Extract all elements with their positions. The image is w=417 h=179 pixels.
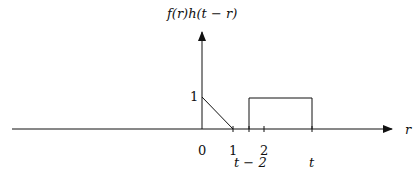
f-decay-line [202,97,233,129]
h-rectangle-pulse [249,98,312,129]
y-axis-label: f(r)h(t − r) [166,6,237,21]
convolution-diagram: f(r)h(t − r) r 1 0 1 2 t − 2 t [0,0,417,179]
x-tick-label-zero: 0 [198,143,206,158]
x-tick-label-t-minus-2: t − 2 [234,155,267,170]
y-tick-label-one: 1 [190,89,198,104]
x-axis-label: r [405,122,412,137]
x-tick-label-t: t [309,155,315,170]
